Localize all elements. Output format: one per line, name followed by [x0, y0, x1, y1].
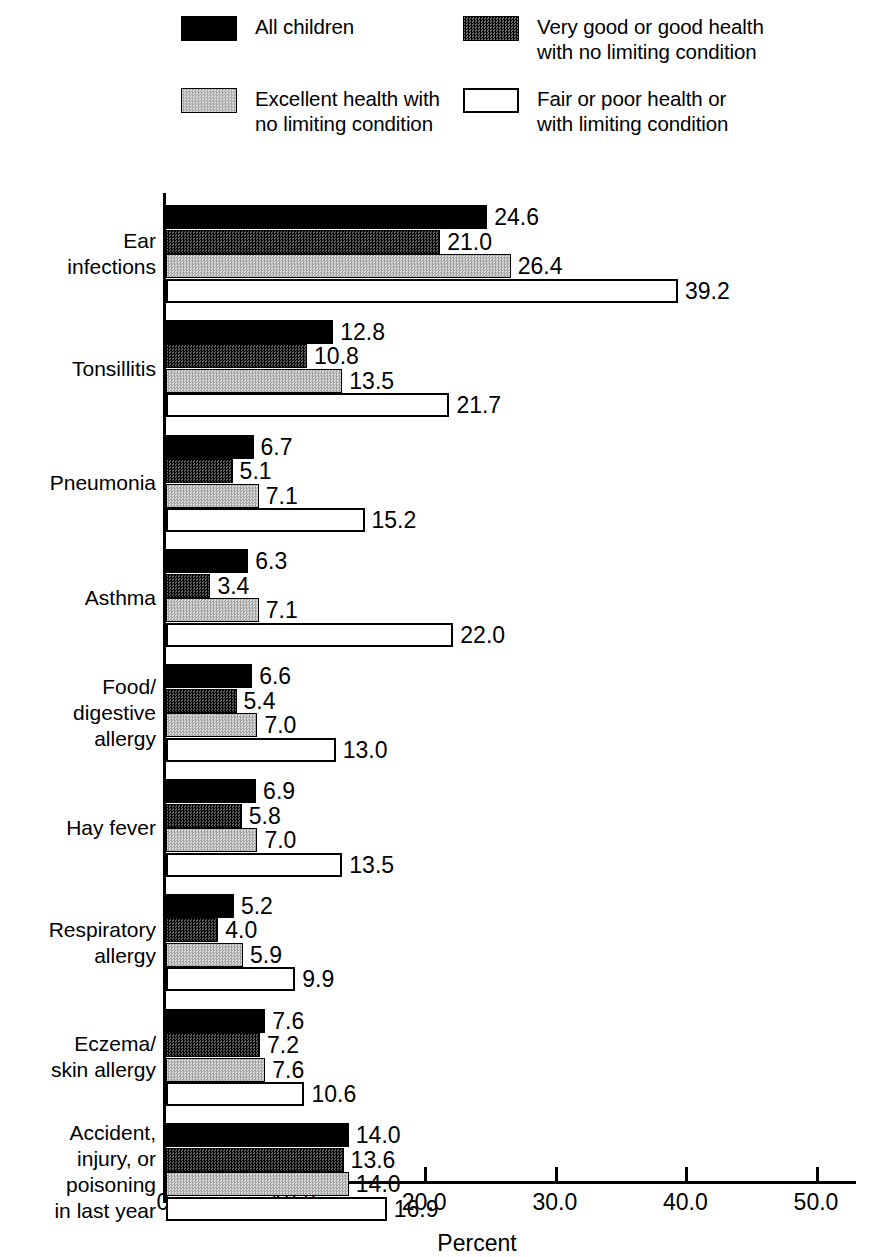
bar — [166, 279, 678, 303]
bar-row: 5.4 — [166, 689, 377, 713]
bar-value-label: 7.0 — [257, 713, 296, 737]
bar-value-label: 7.2 — [260, 1033, 299, 1057]
bar-row: 3.4 — [166, 574, 350, 598]
bar-value-label: 6.6 — [252, 664, 291, 688]
bar-row: 24.6 — [166, 205, 627, 229]
bar-value-label: 7.6 — [265, 1058, 304, 1082]
bar-value-label: 5.8 — [242, 804, 281, 828]
bar-value-label: 4.0 — [218, 918, 257, 942]
bar-group: Asthma6.33.47.122.0 — [0, 549, 884, 647]
category-label: Food/ digestive allergy — [0, 674, 156, 752]
category-label: Asthma — [0, 585, 156, 611]
category-label: Ear infections — [0, 228, 156, 280]
bar-group: Ear infections24.621.026.439.2 — [0, 205, 884, 303]
bar-row: 5.9 — [166, 943, 383, 967]
bar-group: Respiratory allergy5.24.05.99.9 — [0, 894, 884, 992]
bar — [166, 484, 259, 508]
bar-value-label: 12.8 — [333, 320, 385, 344]
bar-row: 21.0 — [166, 230, 580, 254]
bar-row: 7.6 — [166, 1009, 405, 1033]
bar-row: 7.0 — [166, 713, 397, 737]
bar — [166, 738, 336, 762]
bar-value-label: 15.2 — [365, 508, 417, 532]
bar — [166, 1058, 265, 1082]
bar — [166, 508, 365, 532]
bar — [166, 828, 257, 852]
bar — [166, 549, 248, 573]
bar-row: 13.5 — [166, 853, 482, 877]
bar — [166, 393, 449, 417]
bar-row: 16.9 — [166, 1197, 527, 1221]
bar-value-label: 5.4 — [237, 689, 276, 713]
bar — [166, 1033, 260, 1057]
category-label: Respiratory allergy — [0, 917, 156, 969]
dark-hatch-swatch — [463, 16, 519, 41]
bar — [166, 369, 342, 393]
bar-value-label: 10.8 — [307, 344, 359, 368]
bar-value-label: 13.5 — [342, 853, 394, 877]
bar-group: Pneumonia6.75.17.115.2 — [0, 435, 884, 533]
bar-value-label: 6.9 — [256, 779, 295, 803]
bar-row: 7.0 — [166, 828, 397, 852]
bar — [166, 1009, 265, 1033]
bar — [166, 779, 256, 803]
bar-value-label: 6.3 — [248, 549, 287, 573]
legend-item: Excellent health with no limiting condit… — [181, 86, 440, 136]
bar — [166, 1082, 304, 1106]
chart-plot-area: 010.020.030.040.050.0 Ear infections24.6… — [0, 175, 884, 1185]
bar-value-label: 21.0 — [440, 230, 492, 254]
bar — [166, 894, 234, 918]
bar-value-label: 13.6 — [344, 1148, 396, 1172]
bar-row: 26.4 — [166, 254, 651, 278]
bar-row: 15.2 — [166, 508, 505, 532]
bar-row: 39.2 — [166, 279, 818, 303]
bar — [166, 230, 440, 254]
bar — [166, 1172, 349, 1196]
legend-item: All children — [181, 14, 354, 41]
bar — [166, 205, 487, 229]
legend-item: Very good or good health with no limitin… — [463, 14, 764, 64]
bar-value-label: 9.9 — [295, 967, 334, 991]
bar-row: 4.0 — [166, 918, 358, 942]
bar-row: 7.1 — [166, 598, 399, 622]
bar-group: Eczema/ skin allergy7.67.27.610.6 — [0, 1009, 884, 1107]
bar-row: 6.9 — [166, 779, 396, 803]
bar-value-label: 5.1 — [233, 459, 272, 483]
bar — [166, 689, 237, 713]
bar-value-label: 7.1 — [259, 484, 298, 508]
bar — [166, 435, 254, 459]
bar-group: Tonsillitis12.810.813.521.7 — [0, 320, 884, 418]
bar-row: 6.7 — [166, 435, 394, 459]
bar — [166, 254, 511, 278]
bar — [166, 943, 243, 967]
bar-value-label: 7.0 — [257, 828, 296, 852]
bar-value-label: 5.9 — [243, 943, 282, 967]
bar — [166, 344, 307, 368]
bar-row: 12.8 — [166, 320, 473, 344]
bar-row: 5.1 — [166, 459, 373, 483]
light-hatch-swatch — [181, 88, 237, 113]
bar — [166, 1123, 349, 1147]
bar — [166, 574, 210, 598]
bar-value-label: 26.4 — [511, 254, 563, 278]
bar-row: 10.6 — [166, 1082, 444, 1106]
bar-row: 14.0 — [166, 1172, 489, 1196]
bar-value-label: 6.7 — [254, 435, 293, 459]
bar-value-label: 14.0 — [349, 1172, 401, 1196]
bar-value-label: 7.6 — [265, 1009, 304, 1033]
bar-group: Food/ digestive allergy6.65.47.013.0 — [0, 664, 884, 762]
bar-value-label: 21.7 — [449, 393, 501, 417]
bar-value-label: 10.6 — [304, 1082, 356, 1106]
legend-item: Fair or poor health or with limiting con… — [463, 86, 728, 136]
bar-value-label: 16.9 — [387, 1197, 439, 1221]
bar-value-label: 14.0 — [349, 1123, 401, 1147]
bar-value-label: 13.5 — [342, 369, 394, 393]
bar-value-label: 5.2 — [234, 894, 273, 918]
category-label: Tonsillitis — [0, 356, 156, 382]
bar-row: 6.6 — [166, 664, 392, 688]
bar-row: 13.5 — [166, 369, 482, 393]
category-label: Pneumonia — [0, 470, 156, 496]
category-label: Hay fever — [0, 815, 156, 841]
white-outline-swatch — [463, 88, 519, 113]
legend-item-label: Excellent health with no limiting condit… — [255, 86, 440, 136]
